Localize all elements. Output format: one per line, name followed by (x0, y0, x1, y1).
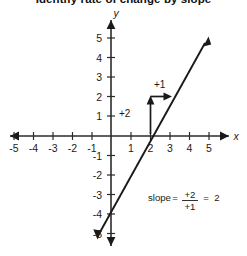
coordinate-plane: -5 -4 -3 -2 -1 1 2 3 4 5 x (0, 0, 247, 256)
x-tick-label: -4 (29, 142, 38, 154)
y-tick-label: 5 (96, 32, 102, 44)
y-axis-label: y (112, 7, 119, 19)
x-tick-label: 1 (128, 142, 134, 154)
y-tick-label: -3 (93, 189, 102, 201)
formula-lead-label: slope (148, 192, 171, 203)
x-axis: -5 -4 -3 -2 -1 1 2 3 4 5 x (9, 130, 239, 154)
y-axis: 5 4 3 2 1 -1 -2 -3 -4 -5 y (93, 7, 120, 246)
formula-equals-sign: = (172, 192, 178, 203)
x-tick-label: -2 (68, 142, 77, 154)
y-tick-label: 3 (96, 71, 102, 83)
slope-annotation-group: +2 +1 (119, 79, 172, 134)
x-tick-label: -5 (9, 142, 18, 154)
slope-graph-figure: Identify rate of change by slope -5 -4 -… (0, 0, 247, 256)
slope-formula: slope = +2 +1 = 2 (148, 189, 220, 212)
run-arrow-head (164, 93, 173, 101)
y-tick-label: -4 (93, 208, 102, 220)
formula-numerator: +2 (185, 189, 196, 200)
y-tick-label: 2 (96, 91, 102, 103)
x-tick-label: 5 (206, 142, 212, 154)
x-tick-label: 3 (167, 142, 173, 154)
run-label: +1 (154, 79, 166, 90)
y-tick-label: 1 (96, 110, 102, 122)
x-tick-label: 4 (187, 142, 193, 154)
y-tick-label: -2 (93, 169, 102, 181)
rise-label: +2 (119, 108, 131, 119)
data-line-arrow-up (203, 37, 211, 47)
y-tick-label: 4 (96, 52, 102, 64)
x-axis-arrow-right (220, 132, 229, 141)
y-axis-arrow-up (107, 20, 116, 29)
formula-denominator: +1 (185, 201, 196, 212)
y-tick-label: -1 (93, 150, 102, 162)
formula-result: 2 (214, 192, 219, 203)
x-tick-label: -3 (48, 142, 57, 154)
y-axis-arrow-down (107, 237, 116, 246)
x-axis-label: x (232, 130, 239, 142)
formula-equals-sign-2: = (203, 192, 209, 203)
